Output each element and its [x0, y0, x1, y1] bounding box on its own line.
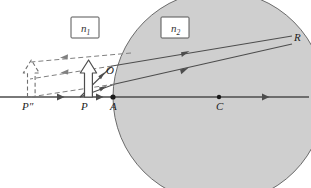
- point-C-dot: [217, 95, 221, 99]
- virtual-ray-extension-top: [31, 53, 131, 62]
- label-P: P: [80, 100, 88, 112]
- label-O: O: [106, 64, 114, 76]
- diagram-canvas: n1 n2 P″ P A O C R: [0, 0, 311, 188]
- label-P-double-prime: P″: [21, 100, 34, 112]
- optics-refraction-figure: n1 n2 P″ P A O C R: [0, 0, 311, 188]
- spherical-medium-region: [113, 0, 311, 188]
- point-A-dot: [110, 94, 115, 99]
- label-A: A: [109, 100, 117, 112]
- axis-arrowhead-left: [57, 94, 65, 101]
- axis-arrowhead-mid: [96, 94, 104, 101]
- incident-ray-lower-arrowhead: [99, 86, 106, 92]
- label-R: R: [293, 31, 301, 43]
- virtual-ray-extension-lower: [30, 84, 115, 97]
- label-C: C: [216, 100, 224, 112]
